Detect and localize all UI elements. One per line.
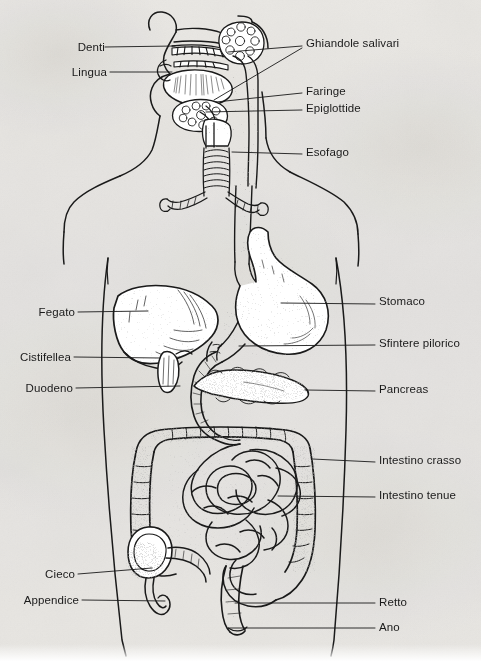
label-denti-text: Denti: [78, 41, 105, 53]
label-ano: Ano: [379, 622, 400, 634]
cecum: [126, 526, 210, 582]
label-intestino-tenue: Intestino tenue: [379, 490, 456, 502]
leader-appendice: [82, 600, 165, 601]
label-denti: Denti: [0, 42, 105, 54]
label-esofago: Esofago: [306, 147, 349, 159]
rectum: [221, 560, 276, 632]
label-ano-text: Ano: [379, 621, 400, 633]
leader-crasso: [312, 459, 375, 462]
label-faringe-text: Faringe: [306, 85, 346, 97]
pyloric-sphincter: [207, 342, 222, 361]
label-intestino-crasso: Intestino crasso: [379, 455, 461, 467]
label-pancreas-text: Pancreas: [379, 383, 428, 395]
label-fegato: Fegato: [0, 307, 75, 319]
appendix: [145, 578, 170, 614]
label-sfintere-pilorico: Sfintere pilorico: [379, 338, 460, 350]
label-cistifellea-text: Cistifellea: [20, 351, 71, 363]
label-appendice-text: Appendice: [24, 594, 79, 606]
scanned-page: Denti Lingua Fegato Cistifellea Duodeno …: [0, 0, 481, 668]
label-cistifellea: Cistifellea: [0, 352, 71, 364]
label-duodeno: Duodeno: [0, 383, 73, 395]
label-stomaco-text: Stomaco: [379, 295, 425, 307]
leader-denti: [105, 46, 175, 47]
label-cieco-text: Cieco: [45, 568, 75, 580]
label-lingua: Lingua: [0, 67, 107, 79]
label-fegato-text: Fegato: [39, 306, 75, 318]
label-retto-text: Retto: [379, 596, 407, 608]
label-retto: Retto: [379, 597, 407, 609]
label-appendice: Appendice: [0, 595, 79, 607]
label-ghiandole-salivari: Ghiandole salivari: [306, 38, 399, 50]
trachea: [203, 148, 230, 196]
label-cieco: Cieco: [0, 569, 75, 581]
label-pancreas: Pancreas: [379, 384, 428, 396]
label-epiglottide: Epiglottide: [306, 103, 361, 115]
label-epiglottide-text: Epiglottide: [306, 102, 361, 114]
label-esofago-text: Esofago: [306, 146, 349, 158]
label-sfintere-pilorico-text: Sfintere pilorico: [379, 337, 460, 349]
label-intestino-crasso-text: Intestino crasso: [379, 454, 461, 466]
teeth-lower: [174, 61, 228, 70]
label-ghiandole-salivari-text: Ghiandole salivari: [306, 37, 399, 49]
label-intestino-tenue-text: Intestino tenue: [379, 489, 456, 501]
label-duodeno-text: Duodeno: [26, 382, 73, 394]
leader-pancreas: [305, 390, 375, 391]
label-faringe: Faringe: [306, 86, 346, 98]
label-stomaco: Stomaco: [379, 296, 425, 308]
label-lingua-text: Lingua: [72, 66, 107, 78]
